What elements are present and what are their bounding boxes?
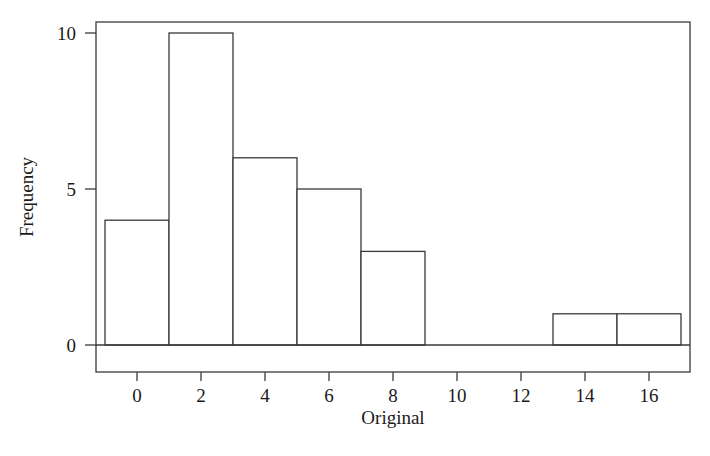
- x-tick-label: 4: [260, 385, 270, 406]
- x-tick-label: 10: [448, 385, 467, 406]
- x-tick-label: 16: [640, 385, 659, 406]
- chart-canvas: 0246810121416 0510 Original Frequency: [0, 0, 710, 456]
- x-tick-label: 8: [388, 385, 398, 406]
- x-tick-label: 0: [132, 385, 142, 406]
- y-tick-label: 10: [57, 23, 76, 44]
- x-axis-label: Original: [361, 407, 424, 428]
- x-tick-label: 2: [196, 385, 206, 406]
- x-tick-label: 12: [512, 385, 531, 406]
- histogram-bar: [169, 33, 233, 345]
- y-tick-label: 0: [67, 335, 77, 356]
- x-tick-label: 14: [576, 385, 596, 406]
- histogram-figure: 0246810121416 0510 Original Frequency: [0, 0, 710, 456]
- histogram-bar: [297, 189, 361, 345]
- histogram-bar: [617, 314, 681, 345]
- y-tick-label: 5: [67, 179, 77, 200]
- histogram-bar: [105, 220, 169, 345]
- histogram-bar: [553, 314, 617, 345]
- x-tick-label: 6: [324, 385, 334, 406]
- y-axis-label: Frequency: [16, 156, 37, 237]
- histogram-bar: [361, 251, 425, 345]
- histogram-bar: [233, 158, 297, 345]
